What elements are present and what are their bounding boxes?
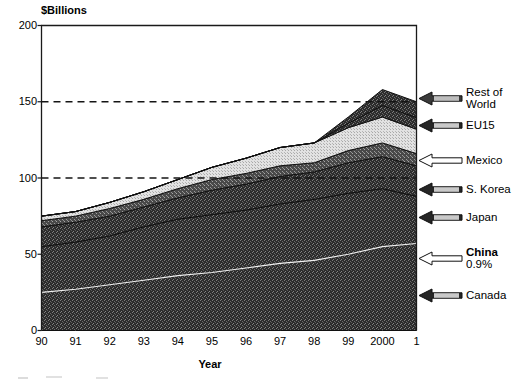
x-tick-label: 2000 [370,336,394,347]
legend-label-group: Canada [466,289,506,302]
legend-item-canada[interactable]: Canada [418,281,506,309]
legend-label: EU15 [466,119,495,132]
x-tick-label: 94 [172,336,184,347]
legend-label-group: EU15 [466,119,495,132]
stacked-area-bands [42,90,417,331]
legend-label-group: Japan [466,211,497,224]
legend-label-group: Mexico [466,154,502,167]
legend-item-rest-of-world[interactable]: Rest of World [418,84,502,112]
dark-arrow-left-icon [418,210,463,225]
x-tick-label: 96 [240,336,252,347]
hatched-arrow-left-icon [418,91,463,106]
x-tick-label: 99 [342,336,354,347]
legend-item-japan[interactable]: Japan [418,203,497,231]
chart-container: $Billions 050100150200 [0,0,521,384]
x-tick-label: 91 [69,336,81,347]
legend-label: China [466,246,498,259]
x-tick-label: 92 [104,336,116,347]
legend-label: Canada [466,289,506,302]
white-arrow-left-icon [418,153,463,168]
white-arrow-left-icon [418,251,463,266]
legend-label-group: Rest of World [466,86,502,111]
legend-label: S. Korea [466,183,511,196]
x-tick-label: 98 [308,336,320,347]
dark-arrow-left-icon [418,182,463,197]
x-tick-label: 90 [35,336,47,347]
legend-label-group: S. Korea [466,183,511,196]
legend-item-s-korea[interactable]: S. Korea [418,175,511,203]
x-tick-label: 93 [138,336,150,347]
legend-label: Mexico [466,154,502,167]
legend-item-china[interactable]: China0.9% [418,244,498,272]
chart-legend: Rest of WorldEU15MexicoS. KoreaJapanChin… [418,0,521,384]
x-axis-title: Year [0,358,420,370]
legend-label: Japan [466,211,497,224]
legend-item-mexico[interactable]: Mexico [418,146,502,174]
legend-label-group: China0.9% [466,246,498,271]
dark-arrow-left-icon [418,118,463,133]
scan-artifact [46,376,62,378]
x-tick-label: 97 [274,336,286,347]
legend-label: Rest of World [466,86,502,111]
legend-sublabel: 0.9% [466,258,498,271]
scan-artifact [96,377,108,379]
x-tick-label: 95 [206,336,218,347]
legend-item-eu15[interactable]: EU15 [418,111,495,139]
dark-arrow-left-icon [418,288,463,303]
scan-artifact [18,377,28,379]
